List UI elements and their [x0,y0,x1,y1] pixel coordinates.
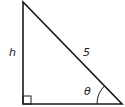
right-angle-marker [23,96,31,104]
angle-arc [97,86,105,104]
angle-label-theta: θ [84,86,91,97]
side-label-h: h [9,47,16,58]
triangle [23,2,122,104]
hypotenuse-label: 5 [83,47,90,58]
triangle-figure [0,0,125,107]
